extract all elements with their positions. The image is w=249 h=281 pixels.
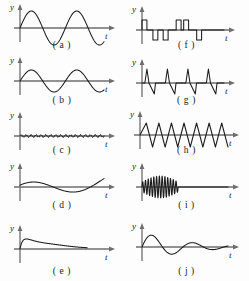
- waveform-panel-f: yt( f ): [124, 0, 249, 55]
- panel-caption-j: ( j ): [124, 266, 249, 276]
- panel-caption-f: ( f ): [124, 40, 249, 50]
- y-axis-label: y: [9, 223, 14, 233]
- y-axis-arrowhead: [18, 4, 23, 10]
- y-axis-arrowhead: [138, 111, 143, 117]
- waveform-panel-grid: yt( a )yt( f )yt( b )yt( g )yt( c )yt( h…: [0, 0, 249, 281]
- waveform-panel-c: yt( c ): [0, 110, 124, 160]
- waveform-curve-d: [20, 179, 104, 192]
- t-axis-label: t: [229, 250, 232, 260]
- waveform-panel-a: yt( a ): [0, 0, 124, 55]
- waveform-panel-h: yt( h ): [124, 110, 249, 160]
- t-axis-arrowhead: [233, 133, 239, 138]
- y-axis-label: y: [129, 110, 134, 119]
- t-axis-arrowhead: [109, 79, 115, 84]
- y-axis-arrowhead: [140, 223, 145, 229]
- panel-caption-b: ( b ): [0, 95, 124, 105]
- waveform-panel-g: yt( g ): [124, 55, 249, 110]
- panel-caption-d: ( d ): [0, 200, 124, 210]
- y-axis-arrowhead: [140, 59, 145, 65]
- y-axis-label: y: [131, 161, 136, 171]
- y-axis-label: y: [131, 57, 136, 67]
- t-axis-label: t: [229, 190, 232, 200]
- y-axis-label: y: [9, 161, 14, 171]
- y-axis-label: y: [9, 55, 14, 65]
- y-axis-arrowhead: [18, 57, 23, 63]
- y-axis-arrowhead: [18, 225, 23, 231]
- signal-waveforms-figure: yt( a )yt( f )yt( b )yt( g )yt( c )yt( h…: [0, 0, 249, 281]
- waveform-curve-j: [142, 235, 228, 254]
- y-axis-arrowhead: [18, 112, 23, 118]
- waveform-curve-e: [20, 239, 87, 249]
- panel-caption-e: ( e ): [0, 266, 124, 276]
- waveform-panel-b: yt( b ): [0, 55, 124, 110]
- t-axis-arrowhead: [229, 81, 235, 86]
- waveform-panel-i: yt( i ): [124, 160, 249, 215]
- panel-caption-c: ( c ): [0, 145, 124, 155]
- panel-caption-a: ( a ): [0, 40, 124, 50]
- waveform-curve-g: [142, 69, 224, 94]
- panel-caption-g: ( g ): [124, 95, 249, 105]
- t-axis-arrowhead: [109, 185, 115, 190]
- t-axis-arrowhead: [109, 26, 115, 31]
- waveform-panel-d: yt( d ): [0, 160, 124, 215]
- t-axis-arrowhead: [109, 134, 115, 139]
- panel-caption-h: ( h ): [124, 145, 249, 155]
- y-axis-arrowhead: [140, 6, 145, 12]
- t-axis-arrowhead: [229, 28, 235, 33]
- y-axis-label: y: [131, 4, 136, 14]
- waveform-curve-c: [20, 134, 104, 137]
- panel-caption-i: ( i ): [124, 200, 249, 210]
- t-axis-label: t: [105, 190, 108, 200]
- t-axis-arrowhead: [233, 245, 239, 250]
- y-axis-arrowhead: [18, 163, 23, 169]
- waveform-panel-j: yt( j ): [124, 215, 249, 281]
- y-axis-arrowhead: [140, 163, 145, 169]
- y-axis-label: y: [9, 2, 14, 12]
- waveform-panel-e: yt( e ): [0, 215, 124, 281]
- t-axis-label: t: [105, 84, 108, 94]
- waveform-curve-i: [142, 176, 228, 198]
- t-axis-label: t: [105, 252, 108, 262]
- t-axis-arrowhead: [233, 185, 239, 190]
- t-axis-arrowhead: [109, 247, 115, 252]
- y-axis-label: y: [9, 110, 14, 120]
- y-axis-label: y: [131, 221, 136, 231]
